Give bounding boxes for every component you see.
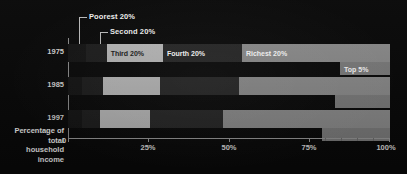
stacked-bar-1985 bbox=[68, 77, 390, 95]
segment-top-5-1985[interactable] bbox=[335, 95, 390, 108]
segment-third-20-1975[interactable]: Third 20% bbox=[107, 44, 163, 62]
segment-third-20-1985[interactable] bbox=[103, 77, 159, 95]
segment-label: Richest 20% bbox=[246, 50, 287, 57]
row-year-label-1985: 1985 bbox=[36, 81, 64, 89]
callout-label-second: Second 20% bbox=[110, 28, 155, 36]
stacked-bar-1997 bbox=[68, 110, 390, 128]
segment-second-20-1985[interactable] bbox=[82, 77, 103, 95]
x-axis-tick-minor-90 bbox=[357, 138, 358, 141]
plot-area: Third 20% Fourth 20% Richest 20% Top 5% bbox=[68, 38, 390, 138]
x-axis-tick-minor-95 bbox=[373, 138, 374, 141]
x-axis-label-75: 75% bbox=[301, 143, 316, 152]
x-axis-label-100: 100% bbox=[376, 143, 395, 152]
segment-richest-20-1985[interactable] bbox=[239, 77, 390, 95]
x-axis-tick-minor-80 bbox=[325, 138, 326, 141]
x-axis-label-50: 50% bbox=[221, 143, 236, 152]
segment-top-5-1975[interactable]: Top 5% bbox=[340, 62, 390, 75]
segment-fourth-20-1985[interactable] bbox=[160, 77, 239, 95]
segment-richest-20-1975[interactable]: Richest 20% bbox=[242, 44, 390, 62]
x-axis: 25% 50% 75% 100% bbox=[68, 138, 390, 139]
stacked-bar-1975: Third 20% Fourth 20% Richest 20% bbox=[68, 44, 390, 62]
x-axis-caption: Percentage of total household income bbox=[0, 126, 64, 164]
callout-leader-second-horizontal bbox=[100, 32, 108, 33]
chart-figure: Poorest 20% Second 20% 1975 1985 1997 Th… bbox=[0, 0, 407, 174]
segment-richest-20-1997[interactable] bbox=[223, 110, 390, 128]
x-axis-tick-75 bbox=[309, 138, 310, 142]
x-axis-tick-100 bbox=[389, 138, 390, 142]
segment-label: Third 20% bbox=[111, 50, 144, 57]
x-axis-tick-50 bbox=[229, 138, 230, 142]
segment-second-20-1975[interactable] bbox=[86, 44, 107, 62]
row-year-label-1997: 1997 bbox=[36, 114, 64, 122]
segment-fourth-20-1997[interactable] bbox=[150, 110, 222, 128]
segment-second-20-1997[interactable] bbox=[82, 110, 101, 128]
segment-label: Fourth 20% bbox=[167, 50, 205, 57]
segment-poorest-20-1985[interactable] bbox=[68, 77, 82, 95]
x-axis-caption-line-1: Percentage of total bbox=[0, 126, 64, 145]
row-year-label-1975: 1975 bbox=[36, 48, 64, 56]
x-axis-caption-line-2: household income bbox=[0, 145, 64, 164]
x-axis-tick-minor-85 bbox=[341, 138, 342, 141]
callout-label-poorest: Poorest 20% bbox=[89, 13, 135, 21]
segment-label: Top 5% bbox=[344, 65, 368, 72]
segment-poorest-20-1997[interactable] bbox=[68, 110, 82, 128]
x-axis-label-25: 25% bbox=[140, 143, 155, 152]
segment-fourth-20-1975[interactable]: Fourth 20% bbox=[163, 44, 242, 62]
segment-poorest-20-1975[interactable] bbox=[68, 44, 86, 62]
segment-third-20-1997[interactable] bbox=[100, 110, 150, 128]
callout-leader-poorest-horizontal bbox=[79, 17, 87, 18]
x-axis-tick-25 bbox=[148, 138, 149, 142]
x-axis-tick-0 bbox=[68, 138, 69, 142]
